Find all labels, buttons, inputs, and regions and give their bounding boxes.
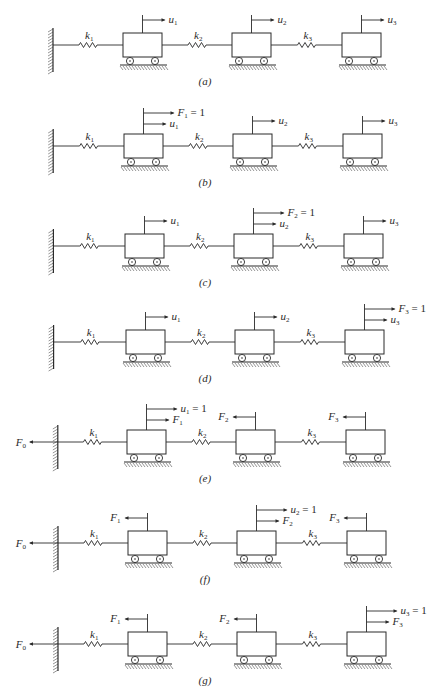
arrow-head-left-icon: [234, 617, 238, 621]
arrow-head-left-icon: [233, 415, 237, 419]
mass-1: u1: [120, 13, 178, 70]
arrow-label: u3: [391, 313, 401, 327]
panel-caption: (f): [200, 573, 211, 586]
wheel-axle-icon: [374, 161, 376, 163]
arrow-head-left-icon: [29, 642, 33, 646]
ground-hatch: [340, 166, 388, 171]
spring-k1: [58, 541, 128, 546]
spring-k1: [58, 440, 127, 445]
wheel-axle-icon: [351, 357, 353, 359]
wheel-axle-icon: [348, 60, 350, 62]
spring-label-k3: k3: [309, 628, 318, 642]
mass-block: [236, 430, 275, 454]
wheel-axle-icon: [378, 558, 380, 560]
mass-3: u3: [339, 13, 397, 70]
arrow-head-right-icon: [171, 111, 175, 115]
force-label-F0: F0: [15, 638, 27, 652]
mass-1: u1: [122, 214, 180, 271]
mass-block: [232, 33, 271, 57]
spring-k1: [54, 340, 126, 345]
ground-hatch: [343, 462, 391, 467]
mass-block: [234, 234, 273, 258]
wheel-axle-icon: [243, 659, 245, 661]
arrow-label: F1 = 1: [177, 106, 205, 120]
panel-caption: (d): [199, 372, 212, 385]
mass-block: [237, 531, 276, 555]
spring-k2: [167, 541, 237, 546]
ground-hatch: [234, 664, 282, 669]
arrow-label: u2: [280, 217, 290, 231]
wheel-axle-icon: [238, 60, 240, 62]
mass-block: [128, 531, 167, 555]
mass-1: u1 = 1F1: [124, 402, 207, 467]
spring-k2: [162, 43, 232, 48]
arrow-label: F1: [109, 511, 121, 525]
mass-block: [125, 234, 164, 258]
arrow-label: u1: [172, 310, 182, 324]
arrow-label: u1: [170, 117, 180, 131]
mass-block: [127, 430, 166, 454]
wheel-axle-icon: [131, 261, 133, 263]
spring-label-k3: k3: [309, 527, 318, 541]
spring-mass-figure: k1k2k3u1u2u3(a)k1k2k3F1 = 1u1u2u3(b)k1k2…: [0, 0, 438, 696]
spring-k1: [53, 43, 123, 48]
mass-3: u3: [341, 214, 399, 271]
panel-caption: (c): [199, 276, 212, 289]
spring-label-k1: k1: [89, 426, 98, 440]
mass-block: [344, 234, 383, 258]
arrow-label: u3: [389, 114, 399, 128]
wheel-axle-icon: [265, 261, 267, 263]
arrow-head-right-icon: [394, 609, 398, 613]
wheel-axle-icon: [243, 558, 245, 560]
fixed-wall: [48, 28, 53, 74]
spring-label-k1: k1: [90, 527, 99, 541]
ground-hatch: [120, 65, 168, 70]
mass-1: F1: [109, 612, 173, 669]
arrow-head-right-icon: [162, 18, 166, 22]
mass-2: u2 = 1F2: [234, 503, 317, 568]
mass-block: [128, 632, 167, 656]
wheel-axle-icon: [240, 261, 242, 263]
panel-g: F0k1k2k3F1F2u3 = 1F3(g): [15, 604, 427, 687]
fixed-wall: [48, 229, 53, 275]
arrow-label: u3: [390, 214, 400, 228]
wheel-axle-icon: [157, 357, 159, 359]
arrow-head-right-icon: [165, 315, 169, 319]
arrow-head-right-icon: [381, 18, 385, 22]
ground-hatch: [229, 65, 277, 70]
spring-k2: [166, 440, 236, 445]
spring-label-k1: k1: [86, 130, 95, 144]
wheel-axle-icon: [242, 457, 244, 459]
mass-3: u3 = 1F3: [344, 604, 427, 669]
spring-label-k1: k1: [90, 628, 99, 642]
wheel-axle-icon: [373, 60, 375, 62]
ground-hatch: [342, 362, 390, 367]
ground-hatch: [344, 563, 392, 568]
spring-k2: [165, 340, 235, 345]
fixed-wall: [53, 526, 58, 572]
arrow-head-right-icon: [272, 119, 276, 123]
spring-label-k1: k1: [87, 326, 96, 340]
mass-block: [124, 134, 163, 158]
mass-block: [343, 134, 382, 158]
arrow-head-right-icon: [392, 307, 396, 311]
ground-hatch: [341, 266, 389, 271]
mass-2: F2: [218, 612, 282, 669]
ground-hatch: [344, 664, 392, 669]
ground-hatch: [125, 664, 173, 669]
panel-caption: (a): [199, 75, 212, 88]
arrow-label: u2: [278, 13, 288, 27]
mass-block: [347, 531, 386, 555]
wheel-axle-icon: [378, 659, 380, 661]
arrow-label: F3: [327, 410, 339, 424]
spring-k1: [53, 144, 124, 149]
panel-a: k1k2k3u1u2u3(a): [48, 13, 397, 88]
mass-3: F3: [328, 511, 392, 568]
ground-hatch: [232, 362, 280, 367]
mass-3: F3: [327, 410, 391, 467]
arrow-label: u3: [388, 13, 398, 27]
mass-block: [235, 330, 274, 354]
spring-label-k1: k1: [86, 230, 95, 244]
arrow-label: F2 = 1: [287, 206, 315, 220]
arrow-label: u2: [281, 310, 291, 324]
